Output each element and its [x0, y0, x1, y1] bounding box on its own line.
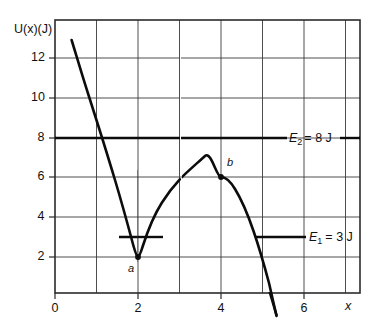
x-axis-title: x	[344, 299, 352, 313]
y-tick-label-6: 6	[38, 169, 45, 183]
chart-svg: 12 10 8 6 4 2 0 2 4 6 U(x)(J) x	[0, 0, 379, 329]
x-tick-label-0: 0	[52, 301, 59, 315]
e2-value-text: = 8 J	[304, 131, 331, 145]
y-tick-label-8: 8	[38, 130, 45, 144]
curve-right-cleanup-mask	[180, 22, 359, 292]
energy-level-2-label: E2= 8 J	[289, 131, 332, 147]
y-tick-label-4: 4	[38, 209, 45, 223]
potential-energy-diagram: 12 10 8 6 4 2 0 2 4 6 U(x)(J) x	[0, 0, 379, 329]
y-axis-title: U(x)(J)	[14, 22, 52, 36]
y-tick-label-10: 10	[31, 90, 45, 104]
e1-value-text: = 3 J	[325, 230, 352, 244]
marker-dot-b	[218, 174, 224, 180]
x-tick-label-2: 2	[135, 301, 142, 315]
energy-level-1-label: E1= 3 J	[309, 230, 353, 246]
e1-subscript: 1	[317, 236, 322, 246]
y-tick-label-2: 2	[38, 249, 45, 263]
e2-subscript: 2	[297, 137, 302, 147]
point-label-a: a	[128, 262, 134, 274]
x-tick-label-6: 6	[301, 301, 308, 315]
marker-dot-a	[135, 254, 141, 260]
y-tick-label-12: 12	[31, 50, 45, 64]
svg-text:E2= 8 J: E2= 8 J	[289, 131, 332, 147]
point-label-b: b	[227, 156, 233, 168]
svg-text:E1= 3 J: E1= 3 J	[309, 230, 353, 246]
x-tick-label-4: 4	[218, 301, 225, 315]
